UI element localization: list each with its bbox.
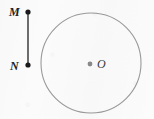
geometry-diagram: O M N (0, 0, 154, 119)
center-point-label: O (97, 57, 106, 71)
point-m-dot (25, 9, 30, 14)
point-m-label: M (8, 5, 20, 19)
point-n-dot (25, 62, 30, 67)
geometry-figure: O M N (0, 0, 154, 119)
point-n-label: N (9, 59, 20, 73)
center-point-dot (88, 62, 93, 67)
